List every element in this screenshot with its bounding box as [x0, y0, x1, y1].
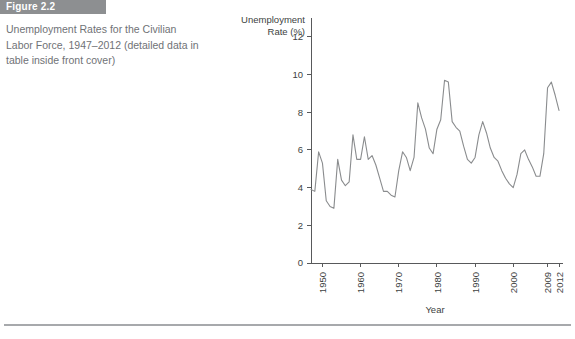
axis-titles: UnemploymentRate (%)Year — [241, 14, 444, 315]
unemployment-rate-chart: 024681012 195019601970198019902000200920… — [222, 8, 570, 318]
y-axis-title-line1: Unemployment — [241, 14, 305, 25]
figure-number: Figure 2.2 — [6, 1, 55, 13]
unemployment-rate-line — [311, 80, 559, 208]
y-tick-label-4: 4 — [298, 182, 303, 193]
figure-caption: Unemployment Rates for the Civilian Labo… — [6, 22, 202, 69]
x-tick-label-1980: 1980 — [432, 272, 443, 293]
x-tick-label-1970: 1970 — [393, 272, 404, 293]
x-axis: 19501960197019801990200020092012 — [311, 263, 565, 293]
y-tick-label-2: 2 — [298, 220, 303, 231]
data-series-line — [311, 80, 559, 208]
x-tick-label-1950: 1950 — [317, 272, 328, 293]
y-tick-label-10: 10 — [292, 69, 303, 80]
x-tick-label-2009: 2009 — [542, 272, 553, 293]
x-tick-label-2000: 2000 — [508, 272, 519, 293]
x-axis-title: Year — [425, 304, 444, 315]
y-axis-title-line2: Rate (%) — [268, 26, 305, 37]
x-tick-label-2012: 2012 — [554, 272, 565, 293]
y-tick-label-8: 8 — [298, 107, 303, 118]
figure-label-bar: Figure 2.2 — [0, 0, 106, 14]
y-tick-label-6: 6 — [298, 144, 303, 155]
page-divider-rule — [4, 324, 571, 326]
x-tick-label-1960: 1960 — [355, 272, 366, 293]
y-axis: 024681012 — [292, 18, 311, 268]
x-tick-label-1990: 1990 — [470, 272, 481, 293]
y-tick-label-0: 0 — [298, 257, 303, 268]
chart-canvas: 024681012 195019601970198019902000200920… — [222, 8, 570, 318]
